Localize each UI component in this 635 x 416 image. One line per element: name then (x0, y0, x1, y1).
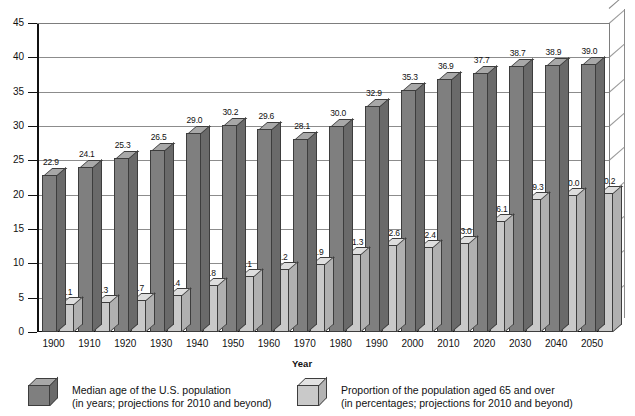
y-axis-tick (28, 195, 37, 196)
y-axis-label: 25 (0, 155, 24, 165)
y-axis-label: 45 (0, 18, 24, 28)
x-axis-label: 2040 (536, 338, 576, 349)
legend-swatch-light-icon (297, 378, 321, 400)
bar-value-label: 39.0 (582, 47, 598, 56)
x-axis-label: 2000 (393, 338, 433, 349)
y-axis-label: 0 (0, 327, 24, 337)
x-axis-label: 2030 (500, 338, 540, 349)
bar-value-label: 28.1 (294, 122, 310, 131)
bar-median-age (42, 175, 57, 332)
bar-value-label: 26.5 (151, 133, 167, 142)
gridline-depth (609, 113, 625, 127)
bar-value-label: 38.7 (510, 49, 526, 58)
bar-value-label: 29.0 (187, 116, 203, 125)
bar-value-label: 29.6 (258, 112, 274, 121)
x-axis-label: 2020 (464, 338, 504, 349)
y-axis-tick (28, 57, 37, 58)
chart-legend: Median age of the U.S. population (in ye… (0, 374, 635, 416)
gridline-depth (609, 147, 625, 161)
y-axis-tick (28, 92, 37, 93)
bar-value-label: 30.2 (223, 108, 239, 117)
legend-line1: Median age of the U.S. population (72, 384, 272, 397)
x-axis-label: 1900 (34, 338, 74, 349)
x-axis-title: Year (292, 358, 312, 369)
bar-value-label: 32.9 (366, 89, 382, 98)
y-axis-label: 35 (0, 87, 24, 97)
plot-top-border (37, 23, 610, 24)
chart-root: 051015202530354045 20.239.020.038.919.33… (0, 0, 635, 416)
bar-value-label: 25.3 (115, 141, 131, 150)
y-axis-tick (28, 23, 37, 24)
x-axis-label: 1950 (213, 338, 253, 349)
x-axis-label: 1930 (141, 338, 181, 349)
y-axis-tick (28, 160, 37, 161)
y-axis-tick (28, 298, 37, 299)
y-axis-label: 20 (0, 190, 24, 200)
y-axis-tick (28, 229, 37, 230)
gridline-depth (609, 79, 625, 93)
x-axis-label: 1920 (105, 338, 145, 349)
legend-swatch-dark-icon (28, 378, 52, 400)
x-axis-label: 1980 (321, 338, 361, 349)
x-axis-label: 2050 (572, 338, 612, 349)
bar-value-label: 30.0 (330, 109, 346, 118)
bar-value-label: 35.3 (402, 73, 418, 82)
x-axis-label: 1940 (177, 338, 217, 349)
y-axis-label: 30 (0, 121, 24, 131)
bar-value-label: 36.9 (438, 62, 454, 71)
y-axis-tick (28, 332, 37, 333)
gridline-depth (609, 44, 625, 58)
y-axis-label: 5 (0, 293, 24, 303)
gridline-depth (609, 10, 625, 24)
x-axis-label: 1910 (69, 338, 109, 349)
x-axis-label: 1970 (285, 338, 325, 349)
frame-depth-top-edge (609, 0, 622, 9)
y-axis-label: 40 (0, 52, 24, 62)
y-axis-tick (28, 126, 37, 127)
y-axis-tick (28, 263, 37, 264)
legend-label-median-age: Median age of the U.S. population (in ye… (72, 384, 272, 409)
bar-value-label: 24.1 (79, 150, 95, 159)
legend-line1: Proportion of the population aged 65 and… (341, 384, 573, 397)
legend-line2: (in years; projections for 2010 and beyo… (72, 397, 272, 410)
legend-line2: (in percentages; projections for 2010 an… (341, 397, 573, 410)
frame-depth-right-edge (624, 9, 625, 318)
y-axis-label: 15 (0, 224, 24, 234)
bar-value-label: 38.9 (546, 48, 562, 57)
bar-value-label: 37.7 (474, 56, 490, 65)
x-axis-label: 2010 (428, 338, 468, 349)
y-axis-label: 10 (0, 258, 24, 268)
x-axis-label: 1960 (249, 338, 289, 349)
legend-label-pct-65-over: Proportion of the population aged 65 and… (341, 384, 573, 409)
x-axis-label: 1990 (357, 338, 397, 349)
bar-value-label: 22.9 (43, 158, 59, 167)
